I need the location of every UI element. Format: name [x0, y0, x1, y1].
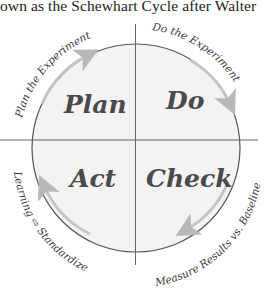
quadrant-plan-label: Plan: [63, 90, 127, 119]
quadrant-act-label: Act: [68, 164, 117, 193]
pdca-diagram: Plan Do Act Check Plan the Experiment Do…: [0, 0, 268, 289]
quadrant-check-label: Check: [146, 164, 233, 193]
quadrant-do-label: Do: [165, 86, 204, 115]
